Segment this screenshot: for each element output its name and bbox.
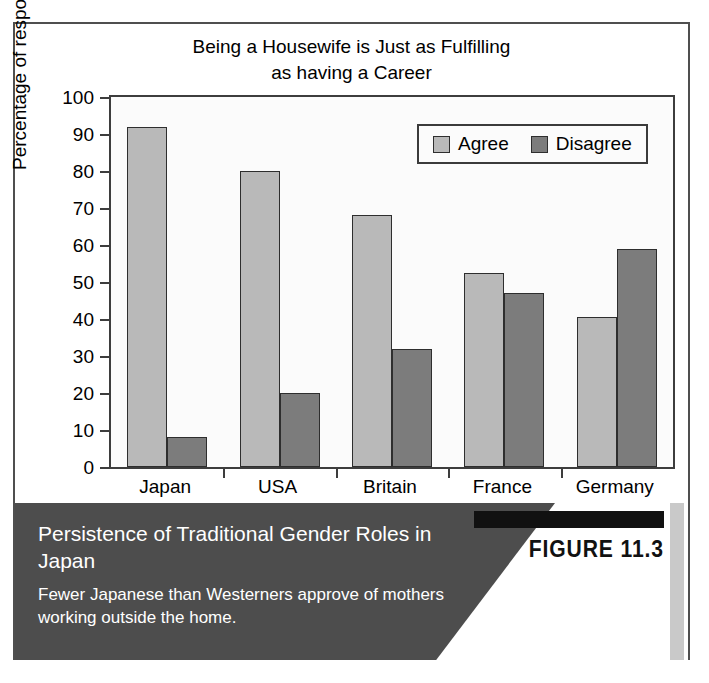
y-axis-tick-label: 100 <box>62 87 94 109</box>
legend-label-disagree: Disagree <box>556 133 632 155</box>
caption-subtitle: Fewer Japanese than Westerners approve o… <box>38 583 458 629</box>
legend-item-agree: Agree <box>433 133 509 155</box>
bar-japan-agree <box>127 127 167 467</box>
y-axis-tick: 50 <box>100 282 111 284</box>
y-axis-tick: 80 <box>100 171 111 173</box>
y-axis-tick-label: 10 <box>73 420 94 442</box>
figure-container: Being a Housewife is Just as Fulfilling … <box>13 22 690 660</box>
caption-edge-shade <box>670 503 684 660</box>
figure-tag-label: FIGURE 11.3 <box>497 535 664 563</box>
x-axis-labels: JapanUSABritainFranceGermany <box>109 476 675 506</box>
x-axis-label-france: France <box>446 476 558 498</box>
bar-germany-disagree <box>617 249 657 467</box>
bar-usa-agree <box>240 171 280 467</box>
y-axis-tick-label: 0 <box>83 457 94 479</box>
y-axis-tick: 100 <box>100 97 111 99</box>
chart-region: Being a Housewife is Just as Fulfilling … <box>15 24 688 502</box>
y-axis-tick-label: 20 <box>73 383 94 405</box>
x-axis-label-japan: Japan <box>109 476 221 498</box>
bar-usa-disagree <box>280 393 320 467</box>
x-axis-label-germany: Germany <box>559 476 671 498</box>
y-axis-tick-label: 80 <box>73 161 94 183</box>
y-axis-tick: 30 <box>100 356 111 358</box>
figure-tag-group: FIGURE 11.3 <box>474 511 664 563</box>
legend-label-agree: Agree <box>458 133 509 155</box>
y-axis-title: Percentage of respondents <box>9 0 31 170</box>
y-axis-tick-label: 40 <box>73 309 94 331</box>
y-axis-tick-label: 30 <box>73 346 94 368</box>
x-axis-label-usa: USA <box>221 476 333 498</box>
chart-title: Being a Housewife is Just as Fulfilling … <box>15 34 688 86</box>
y-axis-tick: 60 <box>100 245 111 247</box>
figure-tag-bar <box>474 511 664 528</box>
y-axis-tick: 40 <box>100 319 111 321</box>
bar-france-agree <box>464 273 504 467</box>
legend-swatch-agree <box>433 136 450 153</box>
bar-britain-agree <box>352 215 392 467</box>
bar-germany-agree <box>577 317 617 467</box>
legend-item-disagree: Disagree <box>531 133 632 155</box>
figure-caption-band: Persistence of Traditional Gender Roles … <box>15 503 688 660</box>
caption-text-group: Persistence of Traditional Gender Roles … <box>38 520 458 629</box>
y-axis-tick-label: 70 <box>73 198 94 220</box>
bar-group <box>223 97 335 467</box>
y-axis-tick-label: 60 <box>73 235 94 257</box>
caption-title: Persistence of Traditional Gender Roles … <box>38 520 458 574</box>
y-axis-tick: 70 <box>100 208 111 210</box>
bar-group <box>111 97 223 467</box>
y-axis-tick: 0 <box>100 467 111 469</box>
bar-france-disagree <box>504 293 544 467</box>
y-axis-tick: 20 <box>100 393 111 395</box>
y-axis-tick-label: 50 <box>73 272 94 294</box>
y-axis-tick-label: 90 <box>73 124 94 146</box>
bar-japan-disagree <box>167 437 207 467</box>
bar-britain-disagree <box>392 349 432 467</box>
legend-swatch-disagree <box>531 136 548 153</box>
y-axis-tick: 10 <box>100 430 111 432</box>
y-axis-tick: 90 <box>100 134 111 136</box>
x-axis-label-britain: Britain <box>334 476 446 498</box>
chart-legend: Agree Disagree <box>417 124 648 164</box>
